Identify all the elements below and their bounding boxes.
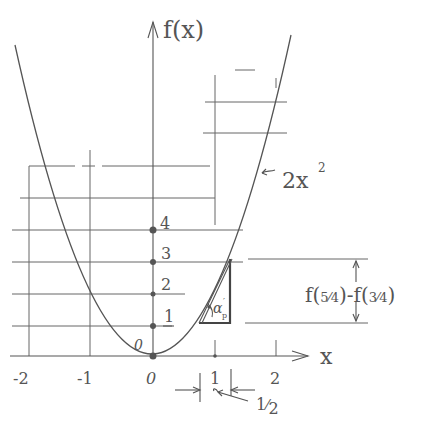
x-tick-0: 0 [146, 369, 156, 388]
y-axis [148, 22, 158, 356]
y-tick-2: 2 [161, 275, 171, 294]
y-tick-4: 4 [160, 214, 170, 233]
difference-label: f(5⁄4)-f(3⁄4) [305, 283, 395, 307]
svg-text:p: p [222, 311, 227, 320]
x-axis-label: x [320, 344, 333, 369]
x-tick-2: 2 [270, 369, 280, 388]
x-ticks: -2 -1 0 1 2 [13, 354, 280, 388]
y-ticks: 1 2 3 4 0 [134, 214, 174, 360]
parabola-diagram: f(x) x 1 2 3 4 0 -2 -1 0 1 2 2x 2 [0, 0, 427, 427]
y-axis-label: f(x) [163, 16, 204, 44]
svg-text:2x: 2x [282, 168, 309, 193]
x-tick-1: 1 [210, 369, 220, 388]
svg-text:2: 2 [318, 161, 326, 175]
secant-triangle: α ′ p [199, 259, 232, 323]
interval-label: 1⁄2 [256, 395, 279, 418]
x-tick-neg2: -2 [13, 369, 29, 388]
grid-lines [12, 70, 368, 356]
svg-text:′: ′ [223, 297, 225, 307]
x-axis [10, 351, 308, 361]
y-tick-1: 1 [164, 307, 174, 326]
curve-label: 2x 2 [262, 161, 326, 193]
y-tick-3: 3 [161, 244, 171, 263]
difference-dimension: f(5⁄4)-f(3⁄4) [305, 261, 395, 321]
x-tick-neg1: -1 [77, 369, 93, 388]
interval-dimension: 1⁄2 [175, 369, 279, 418]
